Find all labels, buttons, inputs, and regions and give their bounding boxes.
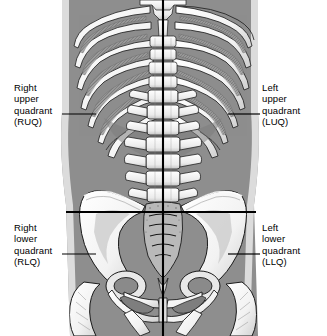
label-llq-line3: quadrant bbox=[262, 245, 300, 256]
abdominal-quadrants-figure: Right upper quadrant (RUQ) Right lower q… bbox=[0, 0, 327, 336]
label-ruq-line3: quadrant bbox=[14, 105, 52, 116]
label-luq-line4: (LUQ) bbox=[262, 116, 300, 127]
label-ruq-line2: upper bbox=[14, 93, 52, 104]
label-left-lower-quadrant: Left lower quadrant (LLQ) bbox=[262, 222, 300, 268]
label-luq-line2: upper bbox=[262, 93, 300, 104]
label-rlq-line2: lower bbox=[14, 233, 52, 244]
label-llq-line1: Left bbox=[262, 222, 300, 233]
label-rlq-line3: quadrant bbox=[14, 245, 52, 256]
label-llq-line2: lower bbox=[262, 233, 300, 244]
label-right-upper-quadrant: Right upper quadrant (RUQ) bbox=[14, 82, 52, 128]
label-right-lower-quadrant: Right lower quadrant (RLQ) bbox=[14, 222, 52, 268]
label-luq-line1: Left bbox=[262, 82, 300, 93]
label-left-upper-quadrant: Left upper quadrant (LUQ) bbox=[262, 82, 300, 128]
label-ruq-line4: (RUQ) bbox=[14, 116, 52, 127]
label-rlq-line1: Right bbox=[14, 222, 52, 233]
label-rlq-line4: (RLQ) bbox=[14, 256, 52, 267]
label-luq-line3: quadrant bbox=[262, 105, 300, 116]
label-ruq-line1: Right bbox=[14, 82, 52, 93]
label-llq-line4: (LLQ) bbox=[262, 256, 300, 267]
anatomy-illustration bbox=[0, 0, 327, 336]
